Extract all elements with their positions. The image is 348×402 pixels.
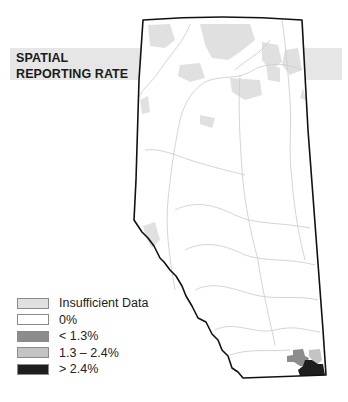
legend: Insufficient Data 0% < 1.3% 1.3 – 2.4% >… bbox=[17, 295, 148, 378]
map-title: SPATIAL REPORTING RATE bbox=[16, 50, 128, 82]
legend-label: 1.3 – 2.4% bbox=[59, 346, 119, 360]
legend-item-mid: 1.3 – 2.4% bbox=[17, 345, 148, 362]
legend-item-insufficient-data: Insufficient Data bbox=[17, 295, 148, 312]
legend-label: 0% bbox=[59, 313, 77, 327]
legend-item-zero: 0% bbox=[17, 312, 148, 329]
legend-label: < 1.3% bbox=[59, 329, 98, 343]
swatch-zero bbox=[17, 314, 49, 325]
swatch-high bbox=[17, 364, 49, 375]
title-line-2: REPORTING RATE bbox=[16, 66, 128, 82]
swatch-low bbox=[17, 331, 49, 342]
legend-item-high: > 2.4% bbox=[17, 361, 148, 378]
legend-label: Insufficient Data bbox=[59, 296, 148, 310]
swatch-insufficient-data bbox=[17, 298, 49, 309]
legend-item-low: < 1.3% bbox=[17, 328, 148, 345]
legend-label: > 2.4% bbox=[59, 362, 98, 376]
title-line-1: SPATIAL bbox=[16, 50, 128, 66]
swatch-mid bbox=[17, 347, 49, 358]
